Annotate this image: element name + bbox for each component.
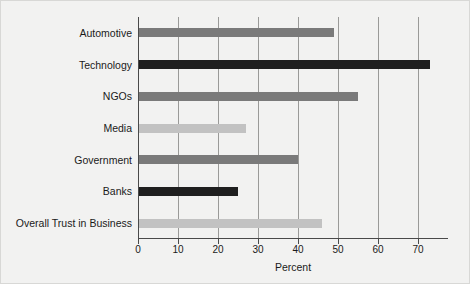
bar-automotive xyxy=(138,28,334,37)
bar-media xyxy=(138,124,246,133)
bar-banks xyxy=(138,187,238,196)
bar-technology xyxy=(138,60,430,69)
y-axis-line xyxy=(138,17,139,239)
category-label-automotive: Automotive xyxy=(79,27,132,39)
gridline-30 xyxy=(258,17,259,239)
category-label-overall-trust-in-business: Overall Trust in Business xyxy=(16,217,132,229)
plot-area xyxy=(138,17,448,239)
x-tick-label-70: 70 xyxy=(412,244,423,255)
x-axis-title: Percent xyxy=(138,261,448,273)
gridline-40 xyxy=(298,17,299,239)
x-tick-label-20: 20 xyxy=(212,244,223,255)
x-tick-label-60: 60 xyxy=(372,244,383,255)
x-tick-label-30: 30 xyxy=(252,244,263,255)
category-label-media: Media xyxy=(103,122,132,134)
x-tick-label-0: 0 xyxy=(135,244,141,255)
x-tick-label-10: 10 xyxy=(172,244,183,255)
bar-chart-figure: Percent 010203040506070AutomotiveTechnol… xyxy=(0,0,470,284)
gridline-50 xyxy=(338,17,339,239)
gridline-70 xyxy=(418,17,419,239)
bar-overall-trust-in-business xyxy=(138,219,322,228)
bar-government xyxy=(138,155,298,164)
bar-ngos xyxy=(138,92,358,101)
category-label-technology: Technology xyxy=(79,59,132,71)
category-label-government: Government xyxy=(74,154,132,166)
category-label-ngos: NGOs xyxy=(103,90,132,102)
x-tick-label-40: 40 xyxy=(292,244,303,255)
x-axis-line xyxy=(138,238,448,239)
gridline-60 xyxy=(378,17,379,239)
category-label-banks: Banks xyxy=(103,185,132,197)
x-tick-label-50: 50 xyxy=(332,244,343,255)
